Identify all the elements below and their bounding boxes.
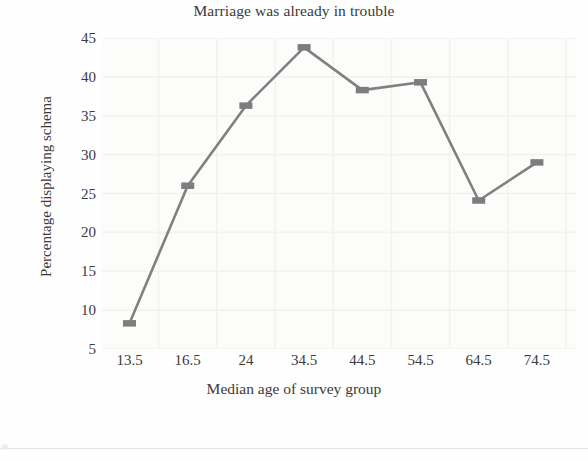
data-point-marker — [356, 87, 369, 94]
y-axis-tick-label: 10 — [81, 302, 96, 319]
y-axis-tick-label: 25 — [81, 185, 96, 202]
data-point-marker — [181, 182, 194, 189]
data-point-marker — [530, 159, 543, 166]
y-axis-tick-label: 35 — [81, 107, 96, 124]
y-axis-tick-labels: 45403530252015105 — [52, 38, 96, 349]
data-point-marker — [472, 197, 485, 204]
data-point-marker — [239, 102, 252, 109]
data-point-marker — [123, 320, 136, 327]
y-axis-tick-label: 40 — [81, 68, 96, 85]
x-axis-tick-labels: 13.516.52434.544.554.564.574.5 — [102, 352, 576, 374]
plot-area — [102, 38, 576, 349]
corner-mark-icon — [2, 444, 8, 450]
y-axis-tick-label: 45 — [81, 30, 96, 47]
data-point-marker — [414, 79, 427, 86]
x-axis-tick-label: 64.5 — [466, 352, 492, 369]
y-axis-tick-label: 30 — [81, 146, 96, 163]
footer-divider — [0, 448, 588, 449]
x-axis-tick-label: 16.5 — [175, 352, 201, 369]
chart-figure: Marriage was already in trouble Percenta… — [0, 0, 588, 461]
y-axis-tick-label: 5 — [89, 341, 97, 358]
line-series — [102, 38, 576, 349]
chart-title: Marriage was already in trouble — [0, 2, 588, 20]
y-axis-tick-label: 15 — [81, 263, 96, 280]
x-axis-tick-label: 13.5 — [116, 352, 142, 369]
x-axis-tick-label: 44.5 — [349, 352, 375, 369]
data-point-marker — [298, 44, 311, 51]
x-axis-tick-label: 34.5 — [291, 352, 317, 369]
y-axis-tick-label: 20 — [81, 224, 96, 241]
x-axis-tick-label: 24 — [238, 352, 253, 369]
x-axis-title: Median age of survey group — [0, 380, 588, 398]
x-axis-tick-label: 54.5 — [407, 352, 433, 369]
x-axis-tick-label: 74.5 — [524, 352, 550, 369]
